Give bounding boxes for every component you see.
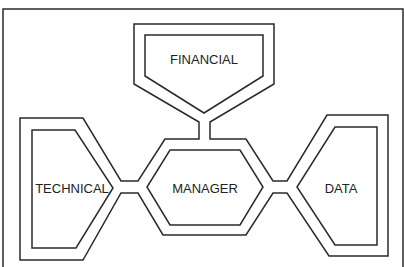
technical-label: TECHNICAL xyxy=(35,181,109,196)
financial-label: FINANCIAL xyxy=(170,52,238,67)
diagram-canvas: FINANCIAL TECHNICAL MANAGER DATA xyxy=(0,0,404,267)
manager-label: MANAGER xyxy=(172,181,238,196)
data-label: DATA xyxy=(325,181,358,196)
node-manager: MANAGER xyxy=(147,150,263,225)
